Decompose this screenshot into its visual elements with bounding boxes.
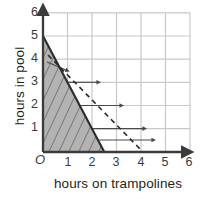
plot-svg (0, 0, 205, 199)
chart-figure: hours in pool hours on trampolines 6 5 4… (0, 0, 205, 199)
plot-area (0, 0, 205, 199)
